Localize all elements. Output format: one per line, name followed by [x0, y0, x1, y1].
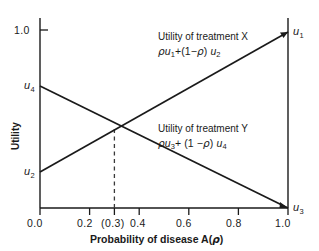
utility-vs-probability-chart: 1.0 Utility u4 u2 u1 u3 0.0 0.2 (0.3) 0.…	[0, 0, 319, 251]
series-y-name: Utility of treatment Y	[158, 122, 248, 136]
x-tick-label-0.0: 0.0	[27, 218, 43, 229]
x-axis-title-close: )	[220, 233, 224, 245]
point-label-u4: u4	[24, 80, 34, 91]
x-tick-label-0.4: 0.4	[130, 218, 146, 229]
point-label-u3: u3	[293, 202, 303, 213]
series-x-mid: +(1−	[175, 45, 197, 57]
series-x-formula: ρu1+(1−ρ) u2	[158, 44, 248, 58]
y-tick-label-1.0: 1.0	[14, 25, 30, 36]
x-tick-label-1.0: 1.0	[275, 218, 291, 229]
x-tick-label-0.6: 0.6	[176, 218, 192, 229]
series-annotation-treatment-y: Utility of treatment Y ρu3+ (1 −ρ) u4	[158, 122, 248, 150]
series-y-rho-2: ρ	[203, 137, 210, 149]
series-x-rho-1: ρ	[158, 45, 165, 57]
u4-subscript: 4	[30, 85, 34, 94]
u1-subscript: 1	[299, 31, 303, 40]
series-y-u4-sub: 4	[222, 142, 226, 151]
series-x-name: Utility of treatment X	[158, 30, 248, 44]
series-y-formula: ρu3+ (1 −ρ) u4	[158, 136, 248, 150]
point-label-u2: u2	[24, 166, 34, 177]
series-x-u1: u	[165, 45, 171, 57]
series-x-u2-sub: 2	[216, 50, 220, 59]
series-y-u3-sub: 3	[171, 142, 175, 151]
x-axis-title-rho: ρ	[212, 233, 220, 245]
series-annotation-treatment-x: Utility of treatment X ρu1+(1−ρ) u2	[158, 30, 248, 58]
series-y-u3: u	[165, 137, 171, 149]
u2-subscript: 2	[30, 171, 34, 180]
y-axis-title: Utility	[11, 122, 21, 150]
x-tick-label-0.3: (0.3)	[101, 218, 125, 229]
series-y-mid: + (1 −	[175, 137, 203, 149]
x-axis-title-text: Probability of disease A(	[90, 233, 212, 245]
point-label-u1: u1	[293, 26, 303, 37]
series-y-rho-1: ρ	[158, 137, 165, 149]
x-tick-label-0.8: 0.8	[226, 218, 242, 229]
u3-subscript: 3	[299, 207, 303, 216]
x-tick-label-0.2: 0.2	[77, 218, 93, 229]
series-y-arrowhead	[280, 202, 289, 208]
x-axis-title: Probability of disease A(ρ)	[90, 234, 223, 245]
series-x-u1-sub: 1	[171, 50, 175, 59]
series-x-rho-2: ρ	[197, 45, 204, 57]
